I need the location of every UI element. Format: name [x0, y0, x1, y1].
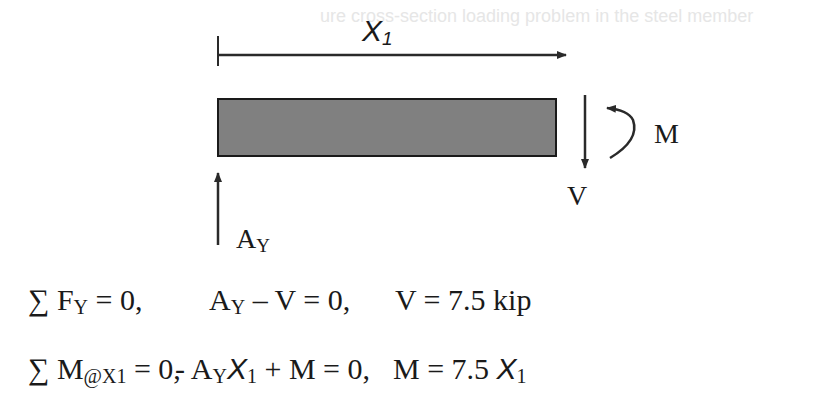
reaction-label: AY	[236, 223, 270, 257]
equation-m-balance: - AYX1 + M = 0,	[175, 352, 370, 388]
dimension-label: X1	[362, 14, 393, 50]
equation-sum-fy: ∑ FY = 0,	[28, 283, 142, 319]
equation-v-result: V = 7.5 kip	[395, 283, 531, 317]
moment-arrow	[607, 108, 634, 158]
equation-sum-m: ∑ M@X1 = 0,	[28, 352, 181, 388]
equation-fy-balance: AY – V = 0,	[209, 283, 350, 319]
equation-m-result: M = 7.5 X1	[393, 352, 527, 388]
beam-segment	[218, 99, 556, 156]
moment-label: M	[654, 118, 679, 150]
shear-label: V	[567, 180, 587, 212]
